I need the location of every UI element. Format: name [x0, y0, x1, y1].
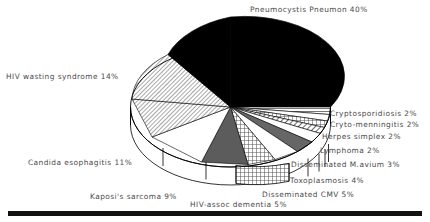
bottom-divider-bar	[8, 211, 422, 216]
label-cryto-menningitis: Cryto-menningitis 2%	[330, 120, 419, 129]
label-disseminated-cmv: Disseminated CMV 5%	[262, 190, 354, 199]
label-hiv-wasting-syndrome: HIV wasting syndrome 14%	[6, 72, 119, 81]
label-herpes-simplex: Herpes simplex 2%	[322, 132, 401, 141]
label-kaposis-sarcoma: Kaposi's sarcoma 9%	[90, 192, 177, 201]
pie-chart-figure: Pneumocystis Pneumon 40% HIV wasting syn…	[0, 0, 430, 222]
label-pneumocystis-pneumon: Pneumocystis Pneumon 40%	[250, 5, 368, 14]
label-hiv-assoc-dementia: HIV-assoc dementia 5%	[190, 200, 287, 209]
label-toxoplasmosis: Toxoplasmosis 4%	[290, 176, 364, 185]
label-cryptosporidiosis: Cryptosporidiosis 2%	[330, 109, 417, 118]
label-lymphoma: Lymphoma 2%	[320, 146, 380, 155]
label-candida-esophagitis: Candida esophagitis 11%	[28, 158, 132, 167]
label-disseminated-m-avium: Disseminated M.avium 3%	[291, 160, 400, 169]
